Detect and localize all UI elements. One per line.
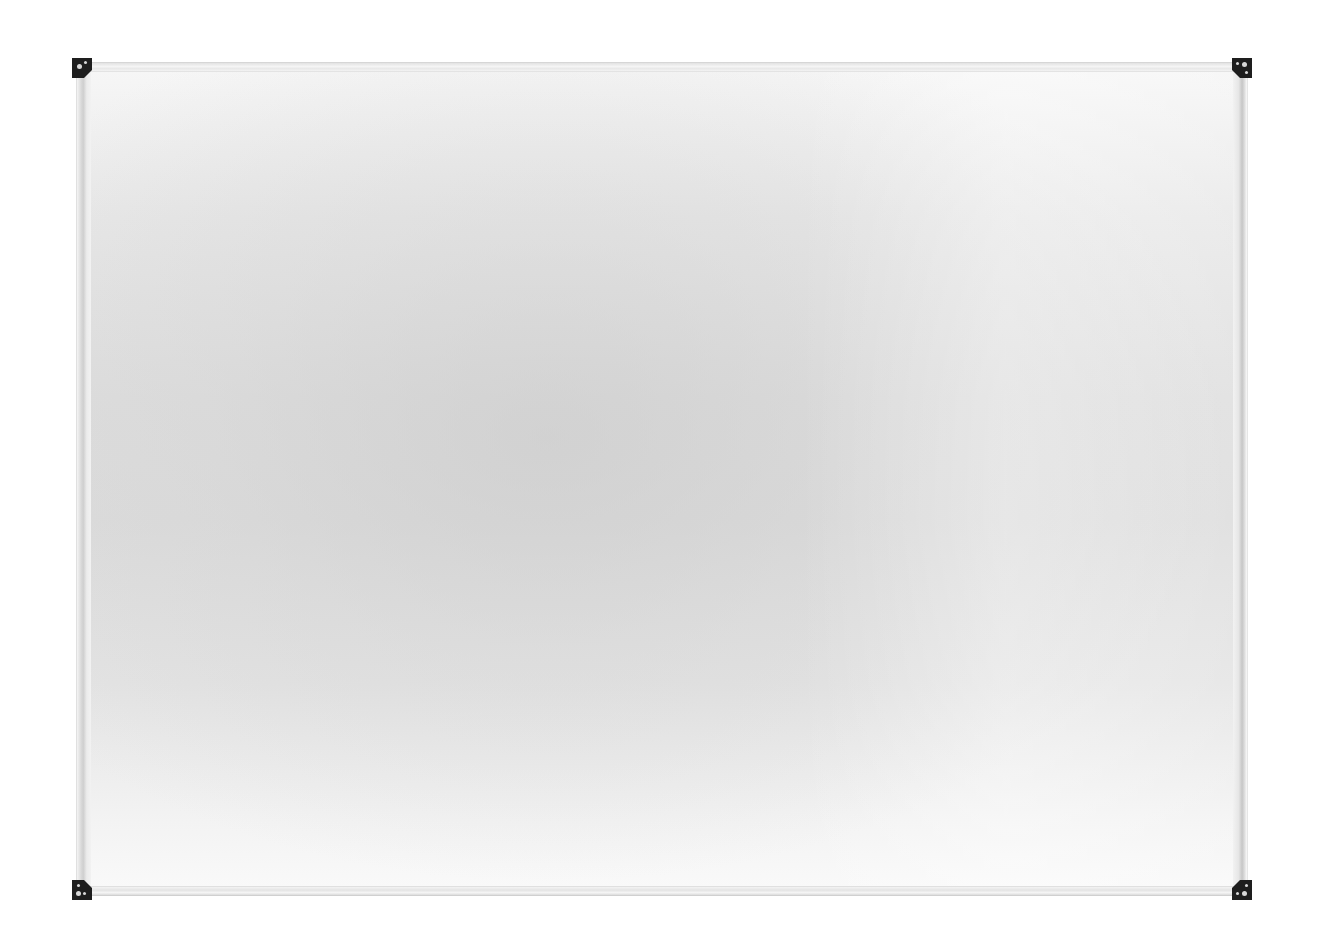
product-photo <box>0 0 1320 950</box>
screw-icon <box>1236 62 1239 65</box>
whiteboard <box>76 62 1248 896</box>
screw-icon <box>77 884 80 887</box>
screw-icon <box>1242 62 1247 67</box>
screw-icon <box>84 61 87 64</box>
frame-rail-right <box>1233 72 1248 886</box>
frame-rail-top <box>86 62 1238 72</box>
screw-icon <box>77 64 82 69</box>
screw-icon <box>1245 884 1248 887</box>
screw-icon <box>76 891 81 896</box>
screw-icon <box>1236 892 1239 895</box>
frame-rail-bottom <box>86 886 1238 896</box>
screw-icon <box>83 892 86 895</box>
screw-icon <box>1245 71 1248 74</box>
screw-icon <box>1242 891 1247 896</box>
whiteboard-surface <box>90 71 1234 887</box>
frame-rail-left <box>76 72 91 886</box>
